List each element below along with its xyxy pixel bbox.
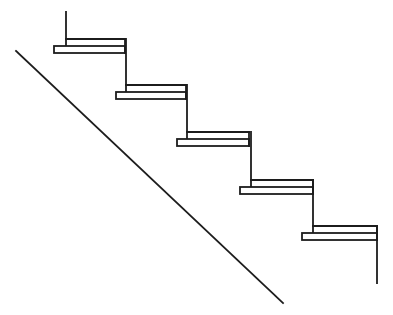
step-2 [116, 39, 186, 99]
step-1 [54, 12, 125, 53]
step-5 [302, 180, 377, 240]
tread-plank [240, 187, 313, 194]
tread-plank [54, 46, 125, 53]
tread-plank [302, 233, 377, 240]
steps-group [54, 12, 377, 240]
stringer-line [16, 51, 283, 303]
step-3 [177, 85, 249, 146]
step-4 [240, 132, 313, 194]
tread-plank [177, 139, 249, 146]
tread-plank [116, 92, 186, 99]
staircase-drawing [0, 0, 393, 315]
staircase-diagram [0, 0, 393, 315]
